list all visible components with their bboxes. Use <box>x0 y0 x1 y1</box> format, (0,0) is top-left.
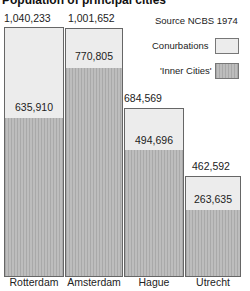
bar-total-label-amsterdam: 1,001,652 <box>68 12 128 24</box>
bar-inner-amsterdam <box>66 68 122 276</box>
chart-title: Population of principal cities <box>2 0 166 7</box>
legend-swatch-conurbations <box>215 38 239 54</box>
category-label-amsterdam: Amsterdam <box>64 276 124 288</box>
bar-total-label-rotterdam: 1,040,233 <box>4 12 64 24</box>
legend-swatch-inner-cities <box>215 63 239 79</box>
bar-total-label-hague: 684,569 <box>124 92 184 104</box>
legend-label-conurbations: Conurbations <box>152 40 209 51</box>
category-label-utrecht: Utrecht <box>184 276 242 288</box>
bar-rotterdam <box>4 27 64 277</box>
bar-total-label-utrecht: 462,592 <box>192 160 248 172</box>
bar-inner-label-rotterdam: 635,910 <box>4 101 64 113</box>
source-note: Source NCBS 1974 <box>155 15 238 26</box>
category-label-hague: Hague <box>124 276 184 288</box>
bar-inner-label-utrecht: 263,635 <box>185 193 241 205</box>
legend-label-inner-cities: 'Inner Cities' <box>160 65 212 76</box>
bar-utrecht <box>185 176 241 277</box>
bar-inner-hague <box>125 150 183 276</box>
bar-inner-label-hague: 494,696 <box>124 134 184 146</box>
bar-amsterdam <box>65 28 123 277</box>
category-label-rotterdam: Rotterdam <box>2 276 66 288</box>
bar-inner-utrecht <box>186 210 240 276</box>
bar-inner-rotterdam <box>5 118 63 276</box>
bar-inner-label-amsterdam: 770,805 <box>65 50 123 62</box>
